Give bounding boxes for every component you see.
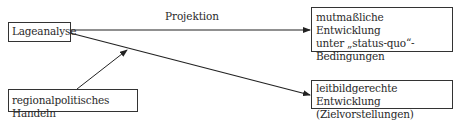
projektion-label: Projektion [165,10,219,22]
status-quo-line-3: Bedingungen [316,50,448,63]
handeln-box: regionalpolitisches Handeln [8,89,138,112]
leitbild-box: leitbildgerechte Entwicklung (Zielvorste… [311,80,453,109]
leitbild-arrow [70,33,310,95]
leitbild-line-1: leitbildgerechte Entwicklung [316,82,448,108]
lageanalyse-box: Lageanalyse [8,22,71,42]
leitbild-line-2: (Zielvorstellungen) [316,108,448,121]
status-quo-line-1: mutmaßliche Entwicklung [316,11,448,37]
lageanalyse-label: Lageanalyse [12,25,76,37]
status-quo-line-2: unter „status-quo“- [316,37,448,50]
handeln-arrow [77,50,127,89]
status-quo-box: mutmaßliche Entwicklung unter „status-qu… [311,7,453,52]
